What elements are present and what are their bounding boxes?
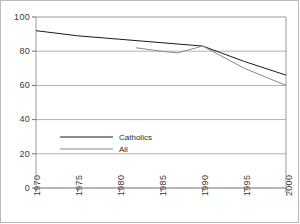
x-tick-marks [36,188,286,192]
line-chart-figure: 100 80 60 40 20 0 1970 1975 1980 1985 19… [0,0,300,224]
series-lines [36,31,286,86]
y-tick-marks [32,17,36,188]
legend-swatches [60,137,113,149]
gridlines [36,51,286,154]
plot-area [0,0,300,224]
